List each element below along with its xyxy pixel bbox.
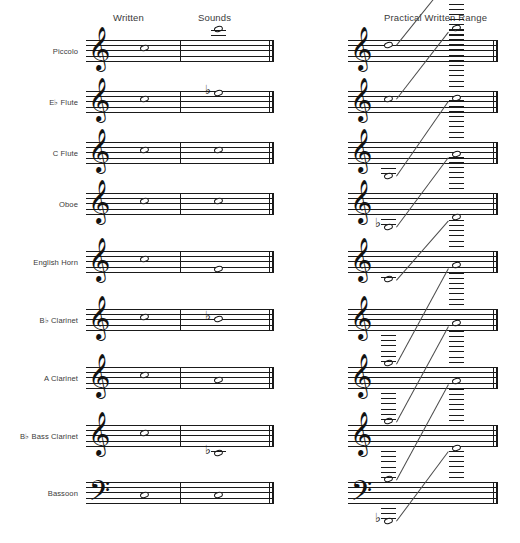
end-barline-thick	[496, 40, 498, 62]
staff-written-sounds-3: 𝄞	[86, 193, 274, 216]
ledger-line	[449, 162, 464, 163]
ledger-line	[449, 389, 464, 390]
end-barline-thick	[496, 309, 498, 331]
staff-written-sounds-0: 𝄞	[86, 40, 274, 63]
ledger-line	[449, 420, 464, 421]
staff-written-sounds-6: 𝄞	[86, 367, 274, 390]
treble-clef-icon: 𝄞	[350, 414, 372, 452]
end-barline-thick	[272, 193, 274, 215]
measure-barline	[180, 91, 181, 113]
instrument-label-2: C Flute	[0, 149, 78, 158]
end-barline-thin	[493, 142, 494, 164]
staff-practical-range-3: 𝄞♭	[348, 193, 498, 216]
ledger-line	[381, 398, 396, 399]
end-barline-thin	[493, 193, 494, 215]
column-header-practical-range: Practical Written Range	[384, 12, 487, 23]
ledger-line	[381, 513, 396, 514]
end-barline-thin	[269, 482, 270, 504]
staff-practical-range-6: 𝄞	[348, 367, 498, 390]
instrument-label-1: E♭ Flute	[0, 98, 78, 107]
transposition-chart: Written Sounds Practical Written Range P…	[0, 0, 520, 543]
staff-practical-range-7: 𝄞	[348, 425, 498, 448]
ledger-line	[449, 472, 464, 473]
ledger-line	[381, 335, 396, 336]
ledger-line	[381, 403, 396, 404]
measure-barline	[180, 142, 181, 164]
ledger-line	[449, 29, 464, 30]
ledger-line	[449, 415, 464, 416]
whole-note-range-low-0	[383, 41, 393, 50]
end-barline-thick	[496, 251, 498, 273]
ledger-line	[449, 283, 464, 284]
ledger-line	[381, 277, 396, 278]
ledger-line	[381, 356, 396, 357]
ledger-line	[381, 409, 396, 410]
instrument-label-3: Oboe	[0, 200, 78, 209]
column-header-written: Written	[113, 12, 144, 23]
ledger-line	[449, 188, 464, 189]
end-barline-thick	[496, 193, 498, 215]
instrument-label-7: B♭ Bass Clarinet	[0, 432, 78, 441]
ledger-line	[381, 414, 396, 415]
end-barline-thick	[496, 91, 498, 113]
ledger-line	[449, 14, 464, 15]
end-barline-thin	[269, 91, 270, 113]
ledger-line	[449, 357, 464, 358]
end-barline-thick	[272, 367, 274, 389]
treble-clef-icon: 𝄞	[350, 182, 372, 220]
ledger-line	[449, 49, 464, 50]
ledger-line	[449, 278, 464, 279]
treble-clef-icon: 𝄞	[350, 131, 372, 169]
end-barline-thin	[269, 251, 270, 273]
treble-clef-icon: 𝄞	[350, 298, 372, 336]
treble-clef-icon: 𝄞	[350, 240, 372, 278]
ledger-line	[449, 137, 464, 138]
ledger-line	[449, 336, 464, 337]
ledger-line	[449, 121, 464, 122]
ledger-line	[449, 177, 464, 178]
ledger-line	[449, 44, 464, 45]
staff-practical-range-1: 𝄞	[348, 91, 498, 114]
bass-clef-icon: 𝄢	[351, 477, 372, 510]
whole-note-sounds-5	[213, 315, 223, 324]
ledger-line	[449, 167, 464, 168]
treble-clef-icon: 𝄞	[88, 240, 110, 278]
ledger-line	[449, 65, 464, 66]
range-connector-line	[396, 326, 449, 422]
ledger-line	[381, 168, 396, 169]
treble-clef-icon: 𝄞	[350, 29, 372, 67]
ledger-line	[381, 518, 396, 519]
ledger-line	[449, 230, 464, 231]
instrument-label-5: B♭ Clarinet	[0, 316, 78, 325]
ledger-line	[449, 383, 464, 384]
staff-practical-range-8: 𝄢♭	[348, 482, 498, 505]
ledger-line	[449, 70, 464, 71]
ledger-line	[449, 466, 464, 467]
ledger-line	[449, 273, 464, 274]
ledger-line	[381, 173, 396, 174]
ledger-line	[449, 126, 464, 127]
ledger-line	[449, 246, 464, 247]
instrument-label-0: Piccolo	[0, 47, 78, 56]
ledger-line	[449, 225, 464, 226]
ledger-line	[449, 461, 464, 462]
instrument-label-6: A Clarinet	[0, 374, 78, 383]
end-barline-thin	[269, 193, 270, 215]
ledger-line	[381, 472, 396, 473]
flat-sign: ♭	[205, 84, 211, 97]
end-barline-thick	[272, 91, 274, 113]
ledger-line	[381, 456, 396, 457]
ledger-line	[449, 241, 464, 242]
staff-practical-range-5: 𝄞	[348, 309, 498, 332]
instrument-label-4: English Horn	[0, 258, 78, 267]
ledger-line	[449, 288, 464, 289]
treble-clef-icon: 𝄞	[88, 131, 110, 169]
ledger-line	[381, 393, 396, 394]
ledger-line	[381, 451, 396, 452]
ledger-line	[449, 172, 464, 173]
ledger-line	[449, 9, 464, 10]
ledger-line	[449, 456, 464, 457]
ledger-line	[449, 325, 464, 326]
treble-clef-icon: 𝄞	[88, 182, 110, 220]
ledger-line	[449, 34, 464, 35]
